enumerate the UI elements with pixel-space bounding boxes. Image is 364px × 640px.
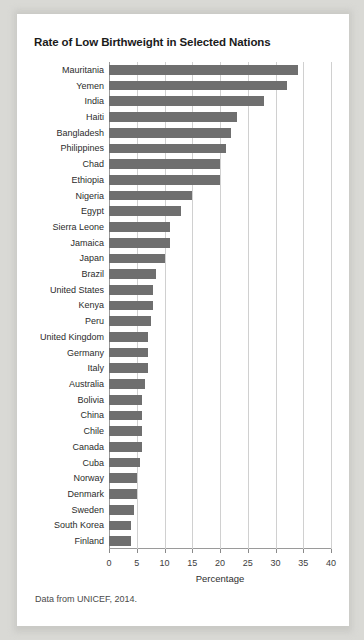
bar-row: Egypt bbox=[109, 206, 331, 216]
bar-chad bbox=[109, 159, 220, 169]
category-label-brazil: Brazil bbox=[81, 269, 104, 279]
category-label-united-kingdom: United Kingdom bbox=[40, 332, 104, 342]
bar-haiti bbox=[109, 112, 237, 122]
bar-row: Sweden bbox=[109, 505, 331, 515]
bar-row: Ethiopia bbox=[109, 175, 331, 185]
bar-bolivia bbox=[109, 395, 142, 405]
category-label-sweden: Sweden bbox=[71, 505, 104, 515]
bar-row: Canada bbox=[109, 442, 331, 452]
bar-row: Chile bbox=[109, 426, 331, 436]
bar-row: Bangladesh bbox=[109, 128, 331, 138]
bar-sweden bbox=[109, 505, 134, 515]
x-tick-label-40: 40 bbox=[326, 558, 336, 568]
bar-india bbox=[109, 96, 264, 106]
bar-germany bbox=[109, 348, 148, 358]
bar-row: Japan bbox=[109, 254, 331, 264]
category-label-germany: Germany bbox=[67, 348, 104, 358]
bar-row: Italy bbox=[109, 363, 331, 373]
plot-area-wrapper: Percentage 0510152025303540MauritaniaYem… bbox=[17, 14, 349, 626]
bar-row: Brazil bbox=[109, 269, 331, 279]
bar-row: United Kingdom bbox=[109, 332, 331, 342]
category-label-egypt: Egypt bbox=[81, 206, 104, 216]
x-tick-mark-0 bbox=[109, 549, 110, 553]
bar-yemen bbox=[109, 81, 287, 91]
bar-bangladesh bbox=[109, 128, 231, 138]
category-label-cuba: Cuba bbox=[82, 458, 104, 468]
bar-row: Finland bbox=[109, 536, 331, 546]
category-label-philippines: Philippines bbox=[60, 143, 104, 153]
figure-card: Rate of Low Birthweight in Selected Nati… bbox=[17, 14, 349, 626]
bar-cuba bbox=[109, 458, 140, 468]
bar-japan bbox=[109, 254, 165, 264]
bar-row: Germany bbox=[109, 348, 331, 358]
category-label-bangladesh: Bangladesh bbox=[56, 128, 104, 138]
bar-row: Australia bbox=[109, 379, 331, 389]
bar-row: Haiti bbox=[109, 112, 331, 122]
bar-kenya bbox=[109, 301, 153, 311]
bar-row: Norway bbox=[109, 473, 331, 483]
bar-row: Chad bbox=[109, 159, 331, 169]
category-label-finland: Finland bbox=[74, 536, 104, 546]
bar-row: Peru bbox=[109, 316, 331, 326]
category-label-australia: Australia bbox=[69, 379, 104, 389]
category-label-kenya: Kenya bbox=[78, 300, 104, 310]
bar-row: South Korea bbox=[109, 521, 331, 531]
x-tick-label-5: 5 bbox=[134, 558, 139, 568]
x-tick-label-30: 30 bbox=[270, 558, 280, 568]
bar-row: United States bbox=[109, 285, 331, 295]
category-label-canada: Canada bbox=[72, 442, 104, 452]
bar-peru bbox=[109, 316, 151, 326]
page-background: Rate of Low Birthweight in Selected Nati… bbox=[0, 0, 364, 640]
bar-canada bbox=[109, 442, 142, 452]
bar-row: India bbox=[109, 96, 331, 106]
bar-norway bbox=[109, 473, 137, 483]
x-tick-mark-30 bbox=[276, 549, 277, 553]
bar-united-kingdom bbox=[109, 332, 148, 342]
bar-nigeria bbox=[109, 191, 192, 201]
category-label-mauritania: Mauritania bbox=[62, 65, 104, 75]
bar-row: Yemen bbox=[109, 81, 331, 91]
bar-chile bbox=[109, 426, 142, 436]
category-label-chad: Chad bbox=[82, 159, 104, 169]
bar-row: China bbox=[109, 411, 331, 421]
category-label-south-korea: South Korea bbox=[54, 520, 104, 530]
category-label-china: China bbox=[80, 410, 104, 420]
bar-brazil bbox=[109, 269, 156, 279]
x-tick-mark-40 bbox=[331, 549, 332, 553]
x-tick-label-35: 35 bbox=[298, 558, 308, 568]
bar-row: Kenya bbox=[109, 301, 331, 311]
category-label-jamaica: Jamaica bbox=[70, 238, 104, 248]
category-label-peru: Peru bbox=[85, 316, 104, 326]
bar-mauritania bbox=[109, 65, 298, 75]
category-label-india: India bbox=[84, 96, 104, 106]
bar-row: Sierra Leone bbox=[109, 222, 331, 232]
category-label-ethiopia: Ethiopia bbox=[71, 175, 104, 185]
bar-row: Nigeria bbox=[109, 191, 331, 201]
category-label-japan: Japan bbox=[79, 253, 104, 263]
bar-denmark bbox=[109, 489, 137, 499]
bar-ethiopia bbox=[109, 175, 220, 185]
x-tick-label-25: 25 bbox=[243, 558, 253, 568]
bar-china bbox=[109, 411, 142, 421]
bar-italy bbox=[109, 363, 148, 373]
x-tick-mark-20 bbox=[220, 549, 221, 553]
x-tick-label-15: 15 bbox=[187, 558, 197, 568]
x-tick-label-10: 10 bbox=[159, 558, 169, 568]
bar-egypt bbox=[109, 206, 181, 216]
x-tick-mark-25 bbox=[248, 549, 249, 553]
bar-australia bbox=[109, 379, 145, 389]
category-label-sierra-leone: Sierra Leone bbox=[52, 222, 104, 232]
category-label-denmark: Denmark bbox=[67, 489, 104, 499]
bar-south-korea bbox=[109, 521, 131, 531]
x-tick-label-0: 0 bbox=[106, 558, 111, 568]
category-label-yemen: Yemen bbox=[76, 81, 104, 91]
bar-row: Denmark bbox=[109, 489, 331, 499]
bar-philippines bbox=[109, 144, 226, 154]
bar-row: Mauritania bbox=[109, 65, 331, 75]
x-tick-label-20: 20 bbox=[215, 558, 225, 568]
x-tick-mark-35 bbox=[303, 549, 304, 553]
category-label-haiti: Haiti bbox=[86, 112, 104, 122]
bar-chart-plot: Percentage 0510152025303540MauritaniaYem… bbox=[109, 62, 331, 549]
category-label-united-states: United States bbox=[50, 285, 104, 295]
source-caption: Data from UNICEF, 2014. bbox=[35, 594, 137, 604]
